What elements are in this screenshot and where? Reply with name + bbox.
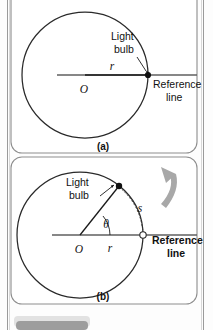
panel-a: Light bulb r O Reference line (a) (11, 0, 202, 153)
panel-a-reference-label-line2: line (166, 91, 183, 103)
panel-b-angle-label: θ (103, 218, 109, 230)
panel-b-light-bulb-label-line2: bulb (69, 189, 89, 201)
panel-b-radius-label: r (108, 242, 113, 254)
bottom-chip (16, 321, 88, 330)
panel-a-reference-label-line1: Reference (153, 78, 202, 90)
physics-figure: Light bulb r O Reference line (a) (0, 0, 213, 330)
panel-b: Light bulb s θ O r Reference line (b) (11, 157, 203, 304)
panel-b-origin-label: O (75, 243, 84, 255)
panel-a-border (11, 0, 197, 153)
panel-b-light-bulb-dot (116, 183, 122, 189)
panel-a-radius-label: r (110, 60, 115, 72)
panel-b-caption: (b) (97, 291, 110, 302)
panel-b-light-bulb-label-line1: Light (66, 176, 89, 188)
panel-b-reference-label-line2: line (167, 247, 185, 259)
panel-a-caption: (a) (97, 141, 109, 152)
panel-a-origin-label: O (80, 83, 89, 95)
figure-canvas: Light bulb r O Reference line (a) (0, 0, 213, 330)
panel-a-light-bulb-label-line1: Light (111, 30, 134, 42)
panel-b-reference-point-marker (140, 232, 146, 238)
panel-a-light-bulb-dot (145, 72, 151, 78)
panel-a-light-bulb-label-line2: bulb (114, 43, 134, 55)
panel-b-arc-label: s (138, 202, 143, 214)
panel-b-reference-label-line1: Reference (152, 234, 203, 246)
